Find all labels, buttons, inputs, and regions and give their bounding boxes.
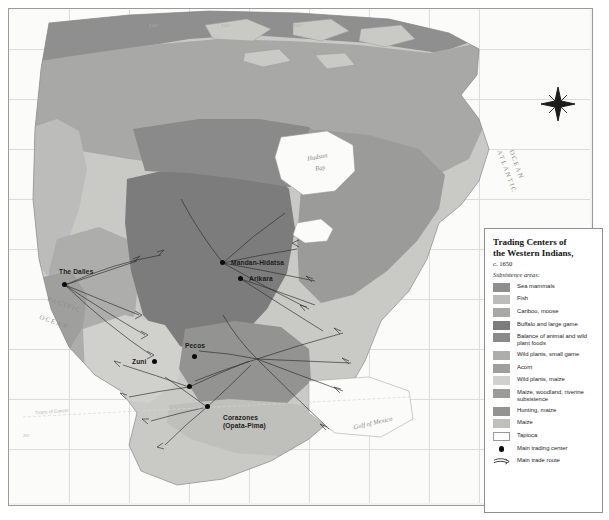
degree-label-top-0: 140° [149, 23, 159, 28]
trading-center-label-corazones: Corazones (Opata-Pima) [223, 414, 266, 429]
legend-item-label-2: Caribou, moose [517, 308, 559, 315]
legend-item-4: Balance of animal and wild plant foods [493, 333, 595, 347]
trading-center-icon [499, 446, 504, 451]
legend-item-8: Maize, woodland, riverine subsistence [493, 389, 595, 403]
trade-route-icon [493, 457, 510, 466]
degree-label-left-0: 20° [23, 433, 30, 438]
corazones-name: Corazones [223, 414, 266, 422]
trading-center-dot-corazones-2[interactable] [205, 404, 210, 409]
legend-swatch-5 [493, 351, 510, 360]
legend-swatch-outline-11 [493, 432, 510, 441]
trading-center-label-pecos: Pecos [185, 342, 205, 349]
trading-center-label-the-dalles: The Dalles [59, 268, 93, 275]
legend-item-11: Tapioca [493, 431, 595, 441]
legend-item-5: Wild plants, small game [493, 350, 595, 360]
legend-item-9: Hunting, maize [493, 406, 595, 416]
legend-symbol-dot [493, 445, 510, 454]
legend-item-3: Buffalo and large game [493, 320, 595, 330]
legend-item-label-6: Acorn [517, 363, 532, 370]
legend-item-0: Sea mammals [493, 282, 595, 292]
legend-item-7: Wild plants, maize [493, 376, 595, 386]
trading-center-label-arikara: Arikara [249, 275, 273, 282]
legend-item-2: Caribou, moose [493, 308, 595, 318]
legend-item-label-4: Balance of animal and wild plant foods [517, 333, 595, 347]
legend-item-6: Acorn [493, 363, 595, 373]
legend-item-label-1: Fish [517, 295, 528, 302]
legend-item-10: Maize [493, 419, 595, 429]
degree-label-top-2: 100° [293, 23, 303, 28]
legend-swatch-8 [493, 389, 510, 398]
legend-item-13: Main trade route [493, 457, 595, 467]
legend-item-label-5: Wild plants, small game [517, 350, 579, 357]
legend-swatch-10 [493, 419, 510, 428]
legend-swatch-0 [493, 283, 510, 292]
map-screenshot: 140°120°100°20° ATLANTIC OCEAN PACIFIC O… [0, 0, 609, 520]
legend-item-label-13: Main trade route [517, 457, 560, 464]
trading-center-dot-pecos[interactable] [192, 354, 197, 359]
trading-center-label-zuni: Zuni [132, 358, 147, 365]
legend-title: Trading Centers of the Western Indians, [493, 237, 595, 258]
compass-rose [541, 87, 575, 121]
legend-panel: Trading Centers of the Western Indians, … [484, 228, 603, 513]
legend-item-1: Fish [493, 295, 595, 305]
legend-swatch-4 [493, 333, 510, 342]
legend-item-12: Main trading center [493, 444, 595, 454]
trading-center-dot-arikara[interactable] [238, 276, 243, 281]
trading-center-dot-mandan-hidatsa[interactable] [220, 260, 225, 265]
legend-item-label-12: Main trading center [517, 444, 567, 451]
legend-item-label-7: Wild plants, maize [517, 376, 565, 383]
legend-title-line2: the Western Indians, [493, 248, 595, 259]
legend-date: c. 1650 [493, 260, 595, 267]
legend-title-line1: Trading Centers of [493, 237, 595, 248]
legend-item-label-0: Sea mammals [517, 282, 555, 289]
legend-swatch-9 [493, 407, 510, 416]
legend-swatch-2 [493, 308, 510, 317]
legend-swatch-3 [493, 321, 510, 330]
legend-item-label-9: Hunting, maize [517, 406, 556, 413]
degree-label-top-1: 120° [221, 23, 231, 28]
legend-item-label-3: Buffalo and large game [517, 320, 578, 327]
legend-item-label-10: Maize [517, 419, 533, 426]
legend-subheading: Subsistence areas: [493, 271, 595, 278]
trading-center-dot-the-dalles[interactable] [62, 282, 67, 287]
trading-center-label-mandan-hidatsa: Mandan-Hidatsa [231, 259, 284, 266]
legend-items: Sea mammalsFishCaribou, mooseBuffalo and… [493, 282, 595, 466]
trading-center-dot-corazones[interactable] [187, 384, 192, 389]
legend-item-label-11: Tapioca [517, 431, 537, 438]
legend-item-label-8: Maize, woodland, riverine subsistence [517, 389, 595, 403]
corazones-subname: (Opata-Pima) [223, 422, 266, 430]
legend-swatch-1 [493, 295, 510, 304]
trading-center-dot-zuni[interactable] [152, 359, 157, 364]
legend-swatch-7 [493, 376, 510, 385]
legend-swatch-6 [493, 364, 510, 373]
